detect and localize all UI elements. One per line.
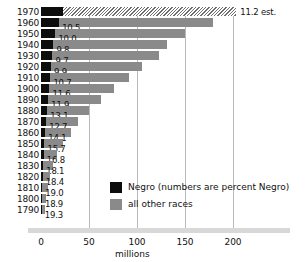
legend-swatch-black	[110, 182, 122, 193]
legend-item: Negro (numbers are percent Negro)	[110, 182, 289, 193]
year-axis-label: 1900	[17, 84, 39, 93]
year-axis-label: 1870	[17, 117, 39, 126]
x-axis-title: millions	[115, 250, 150, 259]
year-axis-label: 1810	[17, 183, 39, 192]
year-axis-label: 1910	[17, 73, 39, 82]
bar-segment-other-races	[63, 7, 236, 15]
x-tick-label: 50	[83, 238, 94, 247]
percent-negro-label: 19.3	[45, 211, 63, 220]
year-axis-label: 1950	[17, 29, 39, 38]
legend-swatch-gray	[110, 199, 122, 210]
year-axis-label: 1840	[17, 150, 39, 159]
year-axis-label: 1970	[17, 7, 39, 16]
year-axis-label: 1800	[17, 194, 39, 203]
bar-segment-other-races	[53, 40, 167, 48]
bar-segment-negro	[41, 95, 48, 103]
bar-segment-other-races	[52, 51, 159, 59]
bar-segment-negro	[41, 73, 50, 81]
year-axis-label: 1830	[17, 161, 39, 170]
bar-segment-negro	[41, 29, 55, 37]
year-axis-label: 1940	[17, 40, 39, 49]
x-tick-label: 200	[224, 238, 241, 247]
percent-negro-label: 19.0	[45, 189, 63, 198]
percent-negro-label: 18.4	[46, 178, 64, 187]
x-tick-label: 100	[128, 238, 145, 247]
year-axis-label: 1890	[17, 95, 39, 104]
year-axis-label: 1850	[17, 139, 39, 148]
bar-segment-negro	[41, 62, 51, 70]
year-axis-label: 1920	[17, 62, 39, 71]
bar-segment-negro	[41, 7, 63, 15]
percent-negro-label: 18.9	[45, 200, 63, 209]
x-tick-label: 150	[176, 238, 193, 247]
bar-segment-negro	[41, 40, 53, 48]
year-axis-label: 1930	[17, 51, 39, 60]
percent-negro-label: 11.2 est.	[240, 8, 276, 17]
legend-item: all other races	[110, 199, 193, 210]
gridline-200	[233, 8, 234, 228]
plot-area: 197011.2 est.196010.5195010.019409.81930…	[0, 0, 305, 262]
population-bar-chart: 197011.2 est.196010.5195010.019409.81930…	[0, 0, 305, 262]
bar-segment-negro	[41, 18, 59, 26]
legend-label: Negro (numbers are percent Negro)	[128, 183, 289, 192]
x-axis-band	[28, 228, 290, 233]
year-axis-label: 1860	[17, 128, 39, 137]
x-tick-label: 0	[38, 238, 44, 247]
year-axis-label: 1790	[17, 205, 39, 214]
year-axis-label: 1880	[17, 106, 39, 115]
bar-segment-negro	[41, 84, 49, 92]
bar-segment-other-races	[59, 18, 213, 26]
year-axis-label: 1960	[17, 18, 39, 27]
year-axis-label: 1820	[17, 172, 39, 181]
legend-label: all other races	[128, 200, 193, 209]
gridline-150	[185, 8, 186, 228]
bar-segment-negro	[41, 51, 52, 59]
